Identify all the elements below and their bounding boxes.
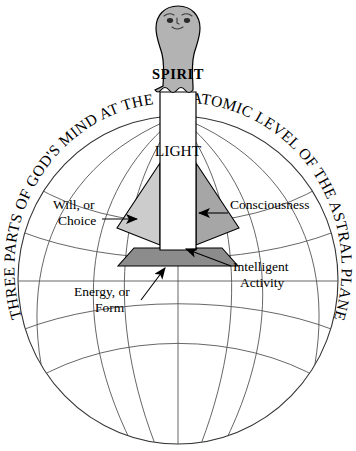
left-eye-icon [167,18,173,23]
light-shaft [160,92,196,250]
base-energy-form [118,248,238,266]
spirit-label: SPIRIT [152,66,204,82]
right-eye-icon [184,18,190,23]
callout-intelligent-line1: Intelligent [233,259,289,274]
callout-intelligent-line2: Activity [240,275,284,290]
light-label: LIGHT [155,142,202,159]
spirit-globe-diagram: THREE PARTS OF GOD'S MIND AT THE ATOMIC … [0,0,356,451]
diagram-canvas: THREE PARTS OF GOD'S MIND AT THE ATOMIC … [0,0,356,451]
callout-consciousness-line1: Consciousness [230,197,310,212]
callout-will-line1: Will, or [53,197,95,212]
callout-energy-line2: Form [95,300,125,315]
callout-will-line2: Choice [58,213,96,228]
callout-energy-line1: Energy, or [74,284,130,299]
